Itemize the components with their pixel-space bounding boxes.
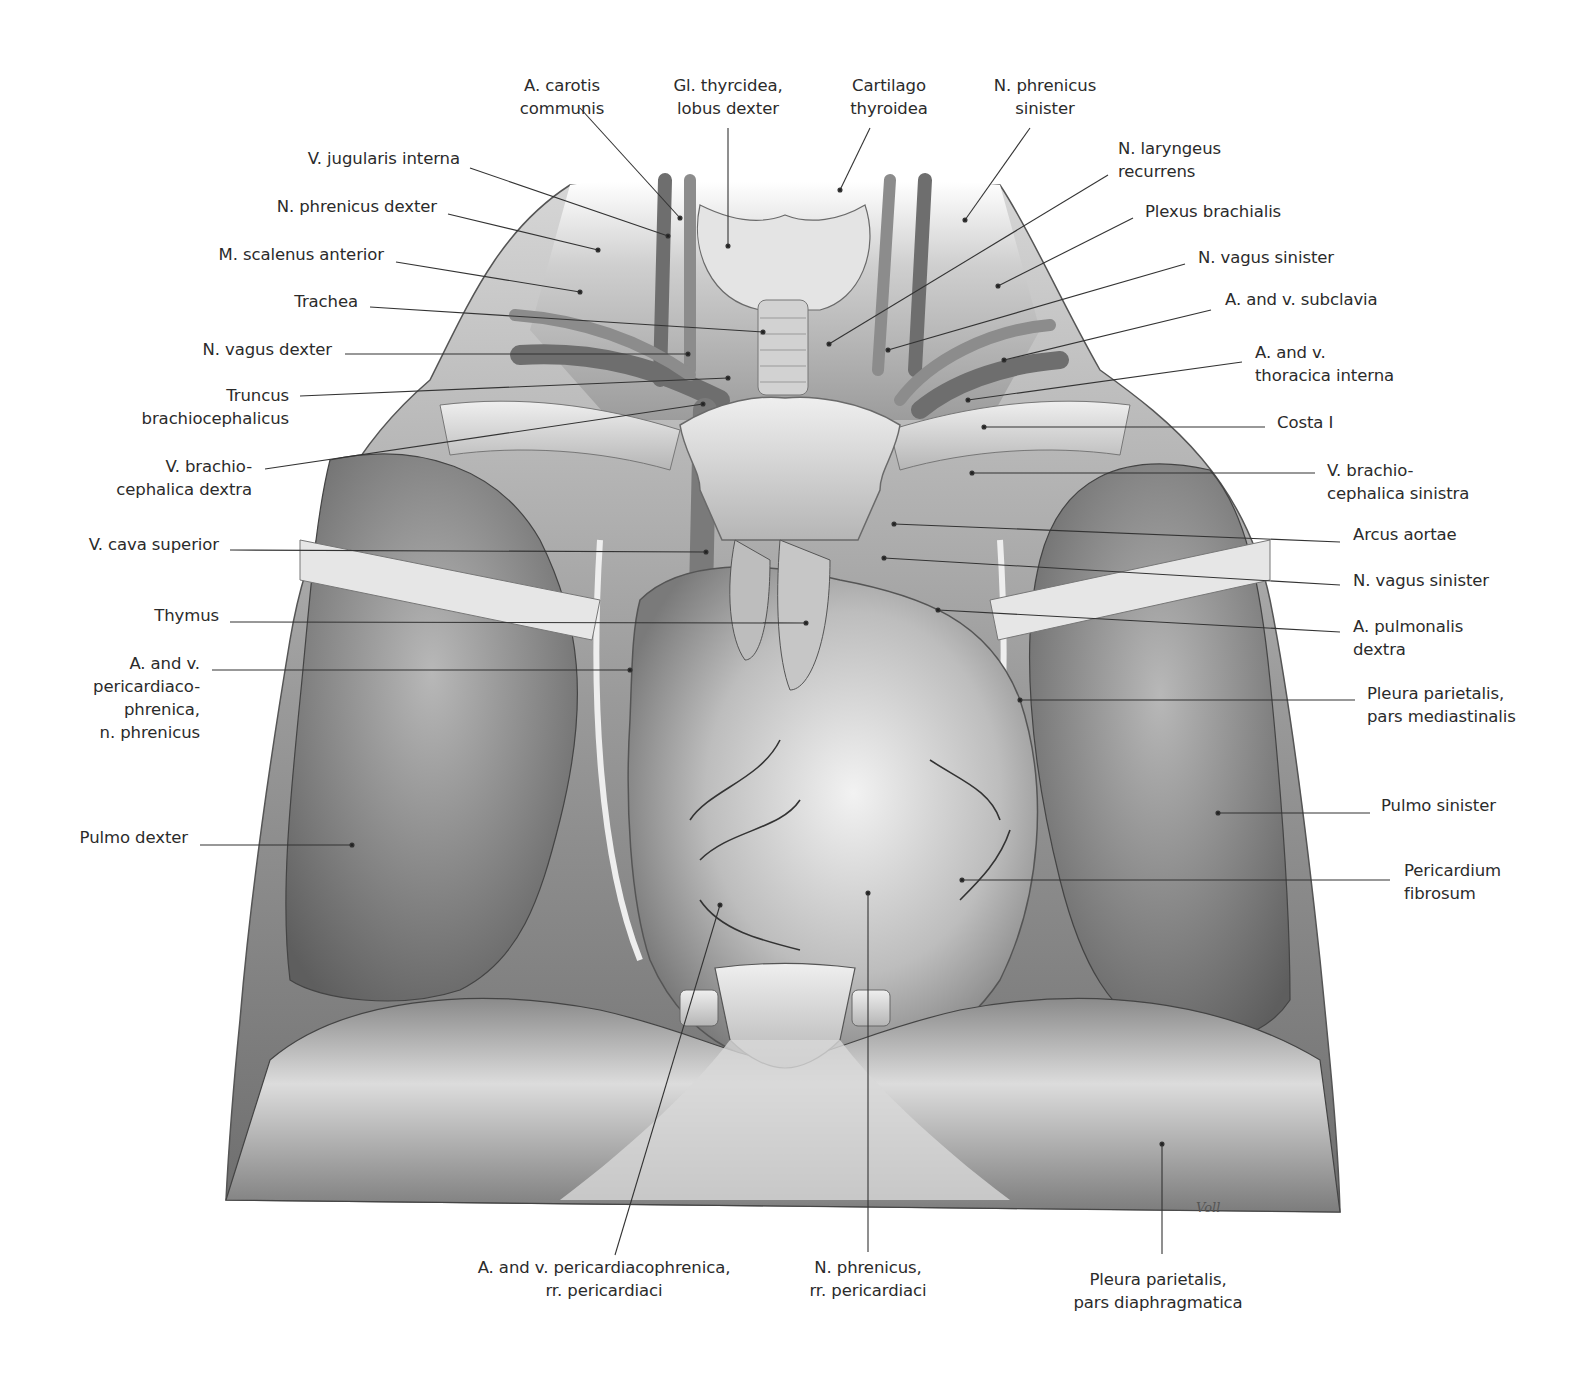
leader-dot-trachea — [761, 330, 765, 334]
anatomy-figure: A. carotis communisGl. thyrcidea, lobus … — [0, 0, 1583, 1382]
label-pulmo-dexter: Pulmo dexter — [80, 826, 188, 849]
leader-dot-v-brachiocephalica-sinistra — [970, 471, 974, 475]
leader-dot-v-brachiocephalica-dextra — [701, 402, 705, 406]
label-n-vagus-dexter: N. vagus dexter — [203, 338, 333, 361]
leader-dot-n-vagus-dexter — [686, 352, 690, 356]
leader-dot-v-jugularis-interna — [666, 234, 670, 238]
leader-dot-pulmo-dexter — [350, 843, 354, 847]
leader-dot-costa-i — [982, 425, 986, 429]
label-costa-i: Costa I — [1277, 411, 1333, 434]
label-a-v-subclavia: A. and v. subclavia — [1225, 288, 1378, 311]
leader-dot-thymus — [804, 621, 808, 625]
label-n-phrenicus-sinister: N. phrenicus sinister — [994, 74, 1096, 120]
leader-dot-a-carotis-communis — [678, 216, 682, 220]
label-pleura-pars-mediastinalis: Pleura parietalis, pars mediastinalis — [1367, 682, 1516, 728]
leader-dot-v-cava-superior — [704, 550, 708, 554]
label-a-carotis-communis: A. carotis communis — [520, 74, 605, 120]
label-a-v-pericardiacophrenica-rr: A. and v. pericardiacophrenica, rr. peri… — [478, 1256, 731, 1302]
label-m-scalenus-anterior: M. scalenus anterior — [219, 243, 384, 266]
leader-dot-n-laryngeus-recurrens — [827, 342, 831, 346]
label-n-vagus-sinister-mid: N. vagus sinister — [1353, 569, 1489, 592]
label-v-jugularis-interna: V. jugularis interna — [308, 147, 460, 170]
manubrium-sterni — [680, 397, 900, 540]
label-pulmo-sinister: Pulmo sinister — [1381, 794, 1496, 817]
leader-dot-n-vagus-sinister-top — [886, 348, 890, 352]
leader-dot-a-v-thoracica-interna — [966, 398, 970, 402]
label-v-cava-superior: V. cava superior — [89, 533, 219, 556]
leader-dot-n-phrenicus-rr — [866, 891, 870, 895]
label-truncus-brachiocephalicus: Truncus brachiocephalicus — [142, 384, 289, 430]
thorax-illustration — [0, 0, 1583, 1382]
leader-dot-a-v-pericardiacophrenica-rr — [718, 903, 722, 907]
label-arcus-aortae: Arcus aortae — [1353, 523, 1457, 546]
leader-dot-plexus-brachialis — [996, 284, 1000, 288]
leader-dot-arcus-aortae — [892, 522, 896, 526]
label-pericardium-fibrosum: Pericardium fibrosum — [1404, 859, 1501, 905]
artist-signature: Voll — [1196, 1200, 1220, 1215]
leader-dot-pericardium-fibrosum — [960, 878, 964, 882]
label-n-phrenicus-dexter: N. phrenicus dexter — [277, 195, 437, 218]
leader-line-cartilago-thyroidea — [840, 128, 870, 190]
label-gl-thyroidea: Gl. thyrcidea, lobus dexter — [673, 74, 782, 120]
label-n-phrenicus-rr: N. phrenicus, rr. pericardiaci — [809, 1256, 926, 1302]
leader-dot-a-pulmonalis-dextra — [936, 608, 940, 612]
leader-dot-pleura-pars-mediastinalis — [1018, 698, 1022, 702]
label-a-v-thoracica-interna: A. and v. thoracica interna — [1255, 341, 1394, 387]
leader-dot-a-v-pericardiacophrenica — [628, 668, 632, 672]
trachea-shape — [758, 300, 808, 395]
leader-dot-pleura-pars-diaphragmatica — [1160, 1142, 1164, 1146]
label-v-brachiocephalica-sinistra: V. brachio- cephalica sinistra — [1327, 459, 1469, 505]
label-trachea: Trachea — [294, 290, 358, 313]
leader-dot-m-scalenus-anterior — [578, 290, 582, 294]
leader-dot-cartilago-thyroidea — [838, 188, 842, 192]
leader-dot-pulmo-sinister — [1216, 811, 1220, 815]
label-thymus: Thymus — [154, 604, 219, 627]
label-n-laryngeus-recurrens: N. laryngeus recurrens — [1118, 137, 1221, 183]
label-v-brachiocephalica-dextra: V. brachio- cephalica dextra — [116, 455, 252, 501]
leader-dot-n-phrenicus-dexter — [596, 248, 600, 252]
label-a-v-pericardiacophrenica: A. and v. pericardiaco- phrenica, n. phr… — [93, 652, 200, 744]
leader-dot-n-vagus-sinister-mid — [882, 556, 886, 560]
label-cartilago-thyroidea: Cartilago thyroidea — [850, 74, 928, 120]
leader-dot-gl-thyroidea — [726, 244, 730, 248]
label-pleura-pars-diaphragmatica: Pleura parietalis, pars diaphragmatica — [1073, 1268, 1242, 1314]
leader-dot-a-v-subclavia — [1002, 358, 1006, 362]
label-a-pulmonalis-dextra: A. pulmonalis dextra — [1353, 615, 1463, 661]
leader-dot-n-phrenicus-sinister — [963, 218, 967, 222]
leader-dot-truncus-brachiocephalicus — [726, 376, 730, 380]
label-n-vagus-sinister-top: N. vagus sinister — [1198, 246, 1334, 269]
label-plexus-brachialis: Plexus brachialis — [1145, 200, 1281, 223]
